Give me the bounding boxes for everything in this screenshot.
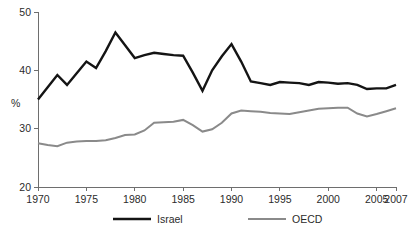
y-axis: 20304050 xyxy=(19,6,38,193)
x-tick-label: 1990 xyxy=(220,193,244,205)
x-tick-label: 1970 xyxy=(26,193,50,205)
x-tick-label: 2000 xyxy=(317,193,341,205)
x-axis: 197019751980198519901995200020052007 xyxy=(26,187,408,205)
x-tick-label: 1995 xyxy=(268,193,292,205)
y-tick-label: 40 xyxy=(19,64,31,76)
series-layer xyxy=(38,32,396,146)
chart-figure: 20304050 1970197519801985199019952000200… xyxy=(0,0,414,232)
x-tick-label: 1975 xyxy=(75,193,99,205)
y-axis-title: % xyxy=(11,97,20,109)
y-tick-label: 50 xyxy=(19,6,31,18)
legend-label-oecd: OECD xyxy=(292,213,323,225)
legend-label-israel: Israel xyxy=(157,213,183,225)
y-tick-label: 30 xyxy=(19,122,31,134)
series-line-israel xyxy=(38,32,396,99)
series-line-oecd xyxy=(38,108,396,147)
y-tick-label: 20 xyxy=(19,181,31,193)
chart-legend: IsraelOECD xyxy=(113,213,323,225)
x-tick-label: 1980 xyxy=(123,193,147,205)
x-tick-label: 1985 xyxy=(171,193,195,205)
x-tick-label: 2007 xyxy=(384,193,408,205)
line-chart: 20304050 1970197519801985199019952000200… xyxy=(0,0,414,232)
